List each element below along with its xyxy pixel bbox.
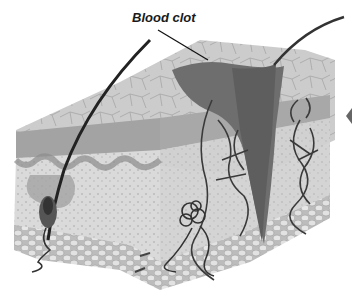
skin-diagram: Blood clot xyxy=(0,0,352,302)
partial-arrow-marker xyxy=(346,108,352,124)
skin-illustration xyxy=(0,0,352,302)
blood-clot-label: Blood clot xyxy=(132,10,196,25)
